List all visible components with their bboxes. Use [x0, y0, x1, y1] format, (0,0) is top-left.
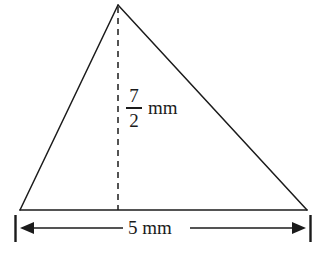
dimension-arrow-right: [292, 222, 306, 234]
geometry-figure: 7 2 mm 5 mm: [0, 0, 317, 253]
figure-canvas: [0, 0, 317, 253]
base-dimension-group: [16, 215, 311, 242]
triangle-shape: [20, 5, 307, 210]
triangle-left-side: [20, 5, 118, 210]
dimension-arrow-left: [20, 222, 34, 234]
triangle-right-side: [118, 5, 307, 210]
